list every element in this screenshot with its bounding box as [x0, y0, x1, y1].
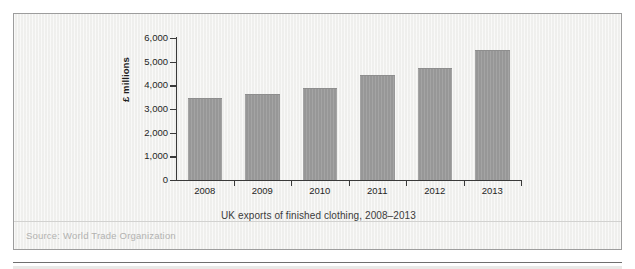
- y-tick-label: 5,000: [144, 56, 168, 67]
- y-tick-label: 4,000: [144, 79, 168, 90]
- bar-2008: [188, 98, 223, 180]
- y-tick-label: 6,000: [144, 32, 168, 43]
- plot-area: 01,0002,0003,0004,0005,0006,000 20082009…: [176, 38, 521, 180]
- x-tick-label-2012: 2012: [406, 185, 464, 196]
- bar-chart: £ millions 01,0002,0003,0004,0005,0006,0…: [114, 20, 534, 230]
- x-tick-label-2011: 2011: [349, 185, 407, 196]
- y-tick-mark: [170, 109, 176, 110]
- bar-2009: [245, 94, 280, 180]
- y-tick-mark: [170, 38, 176, 39]
- source-text: Source: World Trade Organization: [14, 230, 176, 241]
- bar-2011: [360, 75, 395, 180]
- y-tick-mark: [170, 85, 176, 86]
- y-tick-mark: [170, 133, 176, 134]
- figure-panel: £ millions 01,0002,0003,0004,0005,0006,0…: [13, 13, 622, 250]
- bar-2013: [475, 50, 510, 180]
- y-tick-label: 0: [163, 174, 168, 185]
- y-tick-label: 3,000: [144, 103, 168, 114]
- x-tick-label-2013: 2013: [464, 185, 522, 196]
- x-tick-mark: [521, 180, 522, 186]
- x-tick-label-2008: 2008: [176, 185, 234, 196]
- x-tick-label-2009: 2009: [234, 185, 292, 196]
- source-bar: Source: World Trade Organization: [14, 221, 621, 249]
- y-tick-label: 1,000: [144, 150, 168, 161]
- y-tick-mark: [170, 156, 176, 157]
- chart-caption: UK exports of finished clothing, 2008–20…: [14, 210, 623, 221]
- page-divider-rule: [13, 262, 622, 263]
- bar-2010: [303, 88, 338, 180]
- y-axis-title: £ millions: [120, 34, 134, 126]
- y-axis-line: [176, 37, 177, 180]
- y-tick-label: 2,000: [144, 127, 168, 138]
- y-tick-mark: [170, 180, 176, 181]
- x-tick-label-2010: 2010: [291, 185, 349, 196]
- bar-2012: [418, 68, 453, 180]
- y-tick-mark: [170, 62, 176, 63]
